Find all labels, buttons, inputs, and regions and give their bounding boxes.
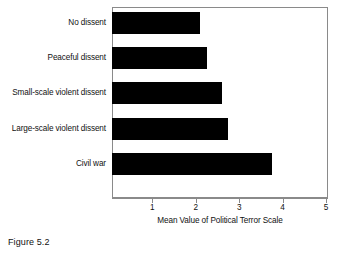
x-tick-label: 3 (229, 203, 249, 213)
category-label: Small-scale violent dissent (0, 88, 106, 98)
bars-layer (112, 7, 328, 198)
category-label: Peaceful dissent (0, 53, 106, 63)
bar (112, 47, 207, 69)
bar (112, 12, 200, 34)
x-tick-label: 4 (273, 203, 293, 213)
bar-chart: No dissentPeaceful dissentSmall-scale vi… (0, 0, 342, 232)
category-label: Large-scale violent dissent (0, 124, 106, 134)
category-label: No dissent (0, 18, 106, 28)
figure-caption: Figure 5.2 (8, 236, 50, 248)
figure-5-2: No dissentPeaceful dissentSmall-scale vi… (0, 0, 342, 255)
category-label: Civil war (0, 159, 106, 169)
x-tick-label: 2 (186, 203, 206, 213)
x-axis-title: Mean Value of Political Terror Scale (112, 215, 328, 226)
x-axis-line (112, 198, 328, 199)
x-tick-label: 1 (142, 203, 162, 213)
bar (112, 153, 272, 175)
category-axis-labels: No dissentPeaceful dissentSmall-scale vi… (0, 7, 106, 198)
x-tick-label: 5 (316, 203, 336, 213)
bar (112, 118, 228, 140)
bar (112, 82, 222, 104)
